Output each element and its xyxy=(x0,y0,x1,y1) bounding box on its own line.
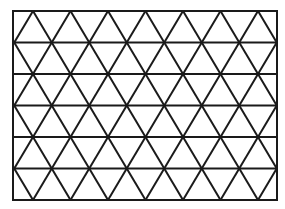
diagonal-line xyxy=(202,106,221,138)
diagonal-line xyxy=(52,169,71,201)
diagonal-line xyxy=(258,11,277,43)
diagonal-line xyxy=(127,11,146,43)
diagonal-line xyxy=(33,74,52,106)
diagonal-line xyxy=(239,169,258,201)
diagonal-line xyxy=(164,11,183,43)
diagonal-line xyxy=(258,74,277,106)
diagonal-line xyxy=(33,137,52,169)
diagonal-line xyxy=(71,43,90,75)
diagonal-line xyxy=(221,74,240,106)
diagonal-line xyxy=(108,106,127,138)
diagonal-line xyxy=(71,74,90,106)
diagonal-line xyxy=(146,106,165,138)
diagonal-line xyxy=(202,169,221,201)
diagonal-line xyxy=(146,169,165,201)
diagonal-line xyxy=(127,43,146,75)
diagonal-line xyxy=(33,43,52,75)
diagonal-line xyxy=(258,169,277,201)
diagonal-line xyxy=(52,43,71,75)
diagonal-line xyxy=(89,106,108,138)
diagonal-line xyxy=(183,43,202,75)
diagonal-line xyxy=(14,11,33,43)
diagonal-line xyxy=(258,106,277,138)
diagonal-line xyxy=(33,169,52,201)
diagonal-line xyxy=(146,137,165,169)
diagonal-line xyxy=(221,106,240,138)
diagonal-line xyxy=(71,169,90,201)
diagonal-line xyxy=(202,137,221,169)
diagonal-line xyxy=(164,74,183,106)
diagonal-line xyxy=(202,74,221,106)
diagonal-line xyxy=(164,169,183,201)
diagonal-line xyxy=(14,137,33,169)
diagonal-line xyxy=(108,11,127,43)
diagonal-line xyxy=(164,106,183,138)
diagonal-line xyxy=(127,74,146,106)
diagonal-line xyxy=(221,43,240,75)
diagonal-line xyxy=(108,169,127,201)
diagonal-line xyxy=(258,43,277,75)
diagonal-line xyxy=(239,43,258,75)
diagonal-line xyxy=(183,106,202,138)
diagonal-line xyxy=(89,74,108,106)
diagonal-line xyxy=(108,43,127,75)
diagonal-line xyxy=(146,74,165,106)
diagonal-line xyxy=(202,11,221,43)
diagonal-line xyxy=(33,106,52,138)
diagonal-line xyxy=(71,106,90,138)
diagonal-line xyxy=(221,11,240,43)
diagonal-line xyxy=(89,169,108,201)
diagonal-line xyxy=(89,137,108,169)
triangular-grid-diagram xyxy=(0,0,285,209)
diagonal-line xyxy=(221,169,240,201)
diagonal-line xyxy=(239,137,258,169)
diagonal-line xyxy=(14,43,33,75)
diagonal-line xyxy=(108,74,127,106)
diagonal-line xyxy=(146,43,165,75)
diagonal-line xyxy=(239,11,258,43)
diagonal-line xyxy=(33,11,52,43)
diagonal-line xyxy=(127,169,146,201)
diagonal-line xyxy=(258,137,277,169)
diagonal-line xyxy=(164,43,183,75)
diagonal-line xyxy=(202,43,221,75)
diagonal-line xyxy=(89,11,108,43)
diagonal-line xyxy=(108,137,127,169)
diagonal-line xyxy=(71,11,90,43)
diagonal-line xyxy=(89,43,108,75)
diagonal-line xyxy=(14,106,33,138)
diagonal-line xyxy=(183,137,202,169)
diagonal-line xyxy=(146,11,165,43)
diagonal-line xyxy=(52,106,71,138)
diagonal-line xyxy=(52,74,71,106)
diagonal-line xyxy=(127,137,146,169)
diagonal-line xyxy=(183,169,202,201)
diagonal-line xyxy=(127,106,146,138)
diagonal-line xyxy=(221,137,240,169)
diagonal-line xyxy=(14,74,33,106)
diagonal-line xyxy=(239,74,258,106)
diagonal-line xyxy=(164,137,183,169)
diagonal-line xyxy=(183,74,202,106)
grid-lines xyxy=(0,11,285,200)
diagonal-line xyxy=(14,169,33,201)
diagonal-line xyxy=(52,11,71,43)
diagonal-line xyxy=(52,137,71,169)
diagonal-line xyxy=(71,137,90,169)
diagonal-line xyxy=(239,106,258,138)
diagonal-line xyxy=(183,11,202,43)
